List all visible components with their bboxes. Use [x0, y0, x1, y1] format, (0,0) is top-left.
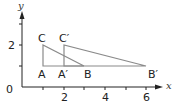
x-tick-6: 6	[143, 91, 150, 104]
x-axis-label: x	[166, 80, 172, 91]
point-label-b-prime: B′	[148, 68, 159, 81]
point-label-a-prime: A′	[58, 68, 69, 81]
coordinate-diagram: x y 0 2 4 6 2 C A C′ A′ B B′	[0, 0, 177, 106]
y-axis-arrow-icon	[20, 11, 25, 19]
point-label-c: C	[38, 32, 46, 45]
triangle-a-prime-b-prime-c-prime	[64, 45, 146, 66]
point-label-c-prime: C′	[59, 32, 70, 45]
x-axis-arrow-icon	[155, 85, 163, 90]
point-label-a: A	[38, 68, 46, 81]
x-tick-4: 4	[102, 91, 109, 104]
y-axis-label: y	[17, 0, 24, 11]
origin-label: 0	[6, 83, 13, 96]
point-label-b: B	[84, 68, 92, 81]
y-tick-2: 2	[8, 39, 15, 52]
x-tick-2: 2	[61, 91, 68, 104]
